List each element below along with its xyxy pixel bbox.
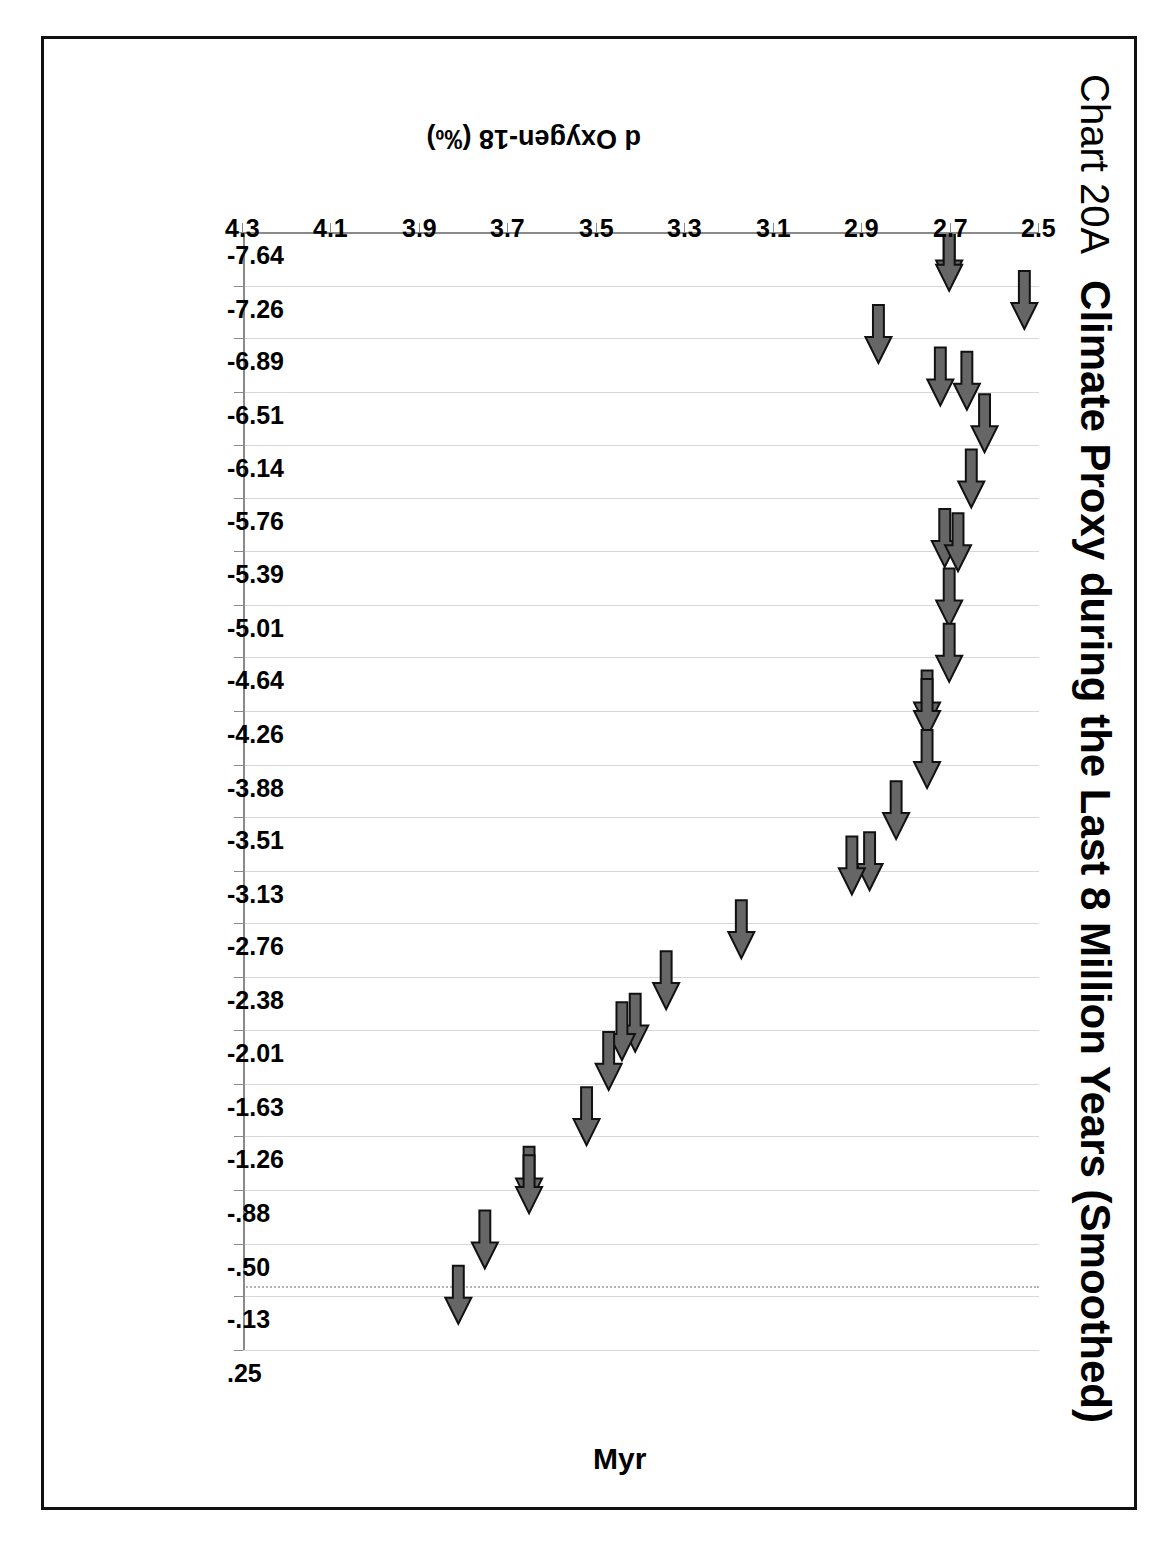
annotation-arrow-icon — [972, 394, 998, 452]
annotation-arrow-icon — [728, 900, 754, 958]
annotation-arrows — [243, 232, 1039, 1350]
x-tick-label: -3.88 — [227, 774, 284, 803]
y-axis-line — [243, 232, 1039, 234]
title-row: Chart 20AClimate Proxy during the Last 8… — [1071, 74, 1119, 1423]
y-tick-label: 3.9 — [402, 214, 437, 243]
x-tick-label: -5.76 — [227, 507, 284, 536]
x-tick-label: -6.89 — [227, 347, 284, 376]
x-tick — [234, 605, 243, 606]
y-tick-label: 4.1 — [313, 214, 348, 243]
x-tick-label: -.88 — [227, 1199, 270, 1228]
annotation-arrow-icon — [653, 951, 679, 1009]
x-tick-label: -2.01 — [227, 1039, 284, 1068]
x-tick-label: -.50 — [227, 1253, 270, 1282]
x-tick — [234, 1084, 243, 1085]
y-tick-label: 3.1 — [756, 214, 791, 243]
page-title: Climate Proxy during the Last 8 Million … — [1072, 280, 1119, 1423]
x-tick-label: -3.13 — [227, 880, 284, 909]
x-tick-label: .25 — [227, 1359, 262, 1388]
annotation-arrow-icon — [865, 305, 891, 363]
x-tick-label: -4.26 — [227, 720, 284, 749]
x-tick — [234, 817, 243, 818]
x-tick-label: -6.14 — [227, 454, 284, 483]
x-tick-label: -6.51 — [227, 401, 284, 430]
annotation-arrow-icon — [574, 1087, 600, 1145]
y-tick-label: 3.3 — [667, 214, 702, 243]
x-tick-label: -5.01 — [227, 614, 284, 643]
x-tick-label: -3.51 — [227, 826, 284, 855]
x-tick-label: -4.64 — [227, 666, 284, 695]
x-tick-label: -.13 — [227, 1305, 270, 1334]
x-tick-label: -1.26 — [227, 1145, 284, 1174]
x-axis-title: Myr — [593, 1442, 646, 1476]
annotation-arrow-icon — [958, 450, 984, 508]
x-tick — [234, 711, 243, 712]
x-tick-label: -7.64 — [227, 241, 284, 270]
x-tick-label: -1.63 — [227, 1093, 284, 1122]
x-tick — [234, 392, 243, 393]
x-tick — [234, 1350, 243, 1351]
x-tick — [234, 657, 243, 658]
annotation-arrow-icon — [936, 624, 962, 682]
annotation-arrow-icon — [445, 1266, 471, 1324]
y-axis-title: d Oxygen-18 (‰) — [426, 123, 641, 154]
annotation-arrow-icon — [936, 569, 962, 627]
x-tick — [234, 1190, 243, 1191]
x-tick — [234, 923, 243, 924]
x-tick — [234, 977, 243, 978]
x-tick — [234, 551, 243, 552]
x-tick — [234, 871, 243, 872]
x-tick — [234, 1030, 243, 1031]
x-tick — [234, 286, 243, 287]
x-tick — [234, 445, 243, 446]
figure: Chart 20AClimate Proxy during the Last 8… — [41, 36, 1137, 1510]
x-tick — [234, 1244, 243, 1245]
rotated-figure-wrapper: Chart 20AClimate Proxy during the Last 8… — [41, 36, 1137, 1510]
y-tick-label: 2.5 — [1021, 214, 1056, 243]
y-tick-label: 3.7 — [490, 214, 525, 243]
chart-number: Chart 20A — [1073, 74, 1117, 254]
y-tick-label: 2.7 — [933, 214, 968, 243]
annotation-arrow-icon — [914, 730, 940, 788]
x-tick-label: -7.26 — [227, 295, 284, 324]
x-tick-label: -2.38 — [227, 986, 284, 1015]
x-tick — [234, 338, 243, 339]
x-tick-label: -5.39 — [227, 560, 284, 589]
y-tick-label: 2.9 — [844, 214, 879, 243]
annotation-arrow-icon — [883, 781, 909, 839]
x-tick — [234, 498, 243, 499]
annotation-arrow-icon — [472, 1210, 498, 1268]
plot-area — [243, 232, 1039, 1350]
y-tick-label: 3.5 — [579, 214, 614, 243]
gridline — [243, 1350, 1039, 1351]
x-tick — [234, 1136, 243, 1137]
annotation-arrow-icon — [1011, 271, 1037, 329]
x-tick — [234, 765, 243, 766]
annotation-arrow-icon — [927, 348, 953, 406]
y-tick-label: 4.3 — [225, 214, 260, 243]
x-tick-label: -2.76 — [227, 932, 284, 961]
annotation-arrow-icon — [954, 352, 980, 410]
annotation-arrow-icon — [857, 832, 883, 890]
x-tick — [234, 1296, 243, 1297]
